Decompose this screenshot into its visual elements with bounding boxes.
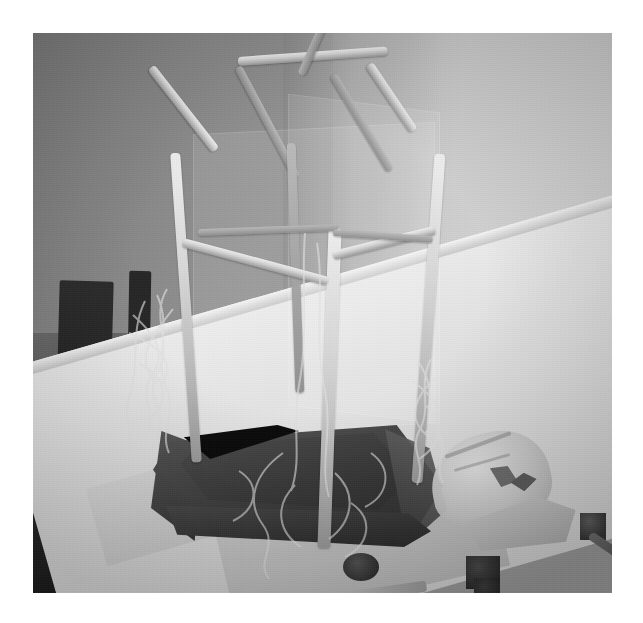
photo-page: Model greenhouse frame built from rolled…: [0, 0, 643, 623]
bottle-cap-front-base: [474, 578, 500, 593]
glazing-panel-right: [288, 94, 440, 425]
photograph: Model greenhouse frame built from rolled…: [33, 33, 612, 593]
dark-knob-bottom: [343, 553, 379, 581]
